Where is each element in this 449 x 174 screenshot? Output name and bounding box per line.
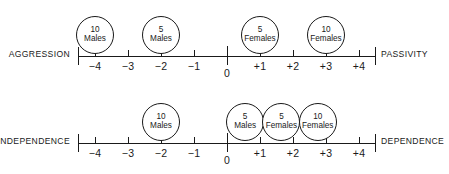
tick-label: 0 <box>210 67 244 79</box>
axis-tick <box>128 137 129 143</box>
pole-label-left-independence: INDEPENDENCE <box>0 136 70 146</box>
group-bubble: 5Females <box>262 103 300 141</box>
tick-label: +1 <box>243 60 277 72</box>
bubble-group-label: Females <box>310 35 341 44</box>
group-bubble: 10Males <box>142 103 180 141</box>
tick-label: −4 <box>78 60 112 72</box>
tick-label: −4 <box>78 147 112 159</box>
bubble-group-label: Males <box>150 122 172 131</box>
axis-tick <box>293 137 294 143</box>
tick-label: +2 <box>276 60 310 72</box>
axis-tick <box>293 50 294 56</box>
bubble-group-label: Females <box>266 122 297 131</box>
axis-tick <box>95 137 96 143</box>
tick-label: +2 <box>276 147 310 159</box>
tick-label: −2 <box>144 147 178 159</box>
pole-label-right-dependence: DEPENDENCE <box>381 136 444 146</box>
tick-label: +4 <box>342 147 376 159</box>
tick-label: +3 <box>309 147 343 159</box>
axis-tick <box>194 50 195 56</box>
tick-label: +3 <box>309 60 343 72</box>
pole-label-left-aggression: AGGRESSION <box>9 49 70 59</box>
tick-label: −2 <box>144 60 178 72</box>
group-bubble: 10Males <box>76 16 114 54</box>
group-bubble: 10Females <box>299 103 337 141</box>
tick-label: −3 <box>111 147 145 159</box>
bubble-group-label: Males <box>150 35 172 44</box>
scale-aggression-passivity: AGGRESSION PASSIVITY −4−3−2−10+1+2+3+4 1… <box>0 0 449 87</box>
axis-tick-zero <box>227 46 228 65</box>
group-bubble: 10Females <box>307 16 345 54</box>
axis-tick <box>359 137 360 143</box>
tick-label: −1 <box>177 60 211 72</box>
bubble-group-label: Males <box>234 122 256 131</box>
group-bubble: 5Males <box>142 16 180 54</box>
axis-tick <box>359 50 360 56</box>
tick-label: 0 <box>210 154 244 166</box>
tick-label: −3 <box>111 60 145 72</box>
tick-label: +4 <box>342 60 376 72</box>
tick-label: +1 <box>243 147 277 159</box>
axis-tick <box>194 137 195 143</box>
tick-label: −1 <box>177 147 211 159</box>
bubble-group-label: Females <box>302 122 333 131</box>
pole-label-right-passivity: PASSIVITY <box>381 49 428 59</box>
bubble-group-label: Males <box>84 35 106 44</box>
axis-tick <box>128 50 129 56</box>
group-bubble: 5Males <box>226 103 264 141</box>
axis-tick <box>260 137 261 143</box>
group-bubble: 5Females <box>241 16 279 54</box>
axis-tick-zero <box>227 133 228 152</box>
scale-independence-dependence: INDEPENDENCE DEPENDENCE −4−3−2−10+1+2+3+… <box>0 87 449 174</box>
bubble-group-label: Females <box>244 35 275 44</box>
